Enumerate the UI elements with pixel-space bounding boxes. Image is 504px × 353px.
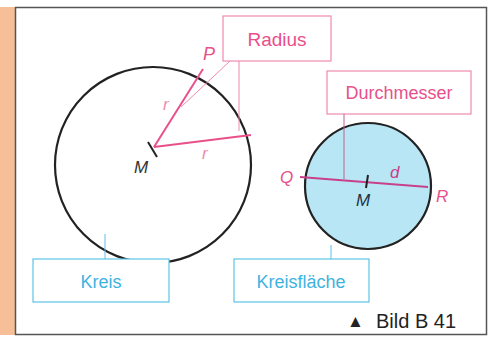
figure-caption: Bild B 41 xyxy=(376,310,456,332)
kreisflaeche-label: Kreisfläche xyxy=(256,272,345,292)
point-q-label: Q xyxy=(280,168,293,187)
caption-marker-icon: ▲ xyxy=(347,312,364,331)
diameter-callout-label: Durchmesser xyxy=(345,83,452,103)
point-r-label: R xyxy=(436,187,448,206)
circle-diagram: Radius M P r r Kreis Durchmesser M Q R d… xyxy=(0,0,504,353)
kreis-label: Kreis xyxy=(80,272,121,292)
point-p-label: P xyxy=(203,44,215,64)
left-center-label: M xyxy=(134,158,149,177)
accent-bar xyxy=(0,7,15,335)
diameter-label-d: d xyxy=(390,163,400,182)
right-center-label: M xyxy=(356,191,371,210)
radius-callout-label: Radius xyxy=(247,29,306,50)
